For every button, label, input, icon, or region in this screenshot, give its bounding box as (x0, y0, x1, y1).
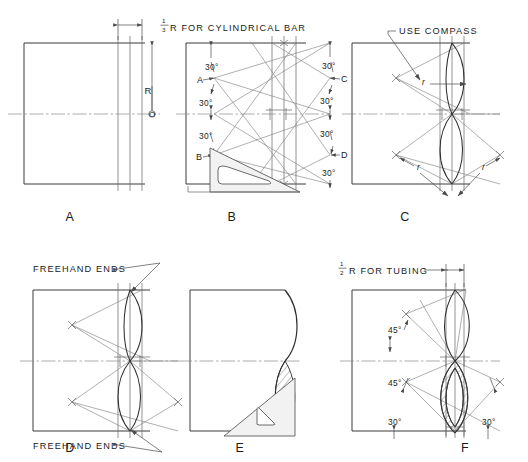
angle-label-b-left-2: 30° (199, 98, 213, 108)
panel-a: 1 3 R FOR CYLINDRICAL BAR R O A (8, 17, 306, 224)
radius-dimension-label: R (145, 85, 152, 96)
point-c-label: C (341, 74, 348, 84)
panel-f: 1 2 R FOR TUBING 45° 45° 30° 30° F (339, 260, 505, 455)
panel-letter-d: D (65, 441, 75, 455)
technical-drawing-canvas: 1 3 R FOR CYLINDRICAL BAR R O A (0, 0, 528, 462)
point-d-label: D (341, 150, 348, 160)
panel-b-angles-right: 30° C 30° 30° D 30° (320, 46, 348, 188)
angle-label-f-1: 45° (388, 325, 402, 335)
panel-b-angles-left: 30° A 30° 30° B (196, 46, 219, 162)
panel-e: E (178, 290, 300, 455)
angle-label-b-left-3: 30° (199, 131, 213, 141)
radius-label-c-1: r (422, 77, 426, 87)
drafting-triangle-e (224, 378, 295, 436)
freehand-ends-top-text: FREEHAND ENDS (33, 264, 126, 274)
angle-label-f-3: 30° (388, 417, 402, 427)
fraction-numerator-half: 1 (340, 260, 344, 267)
panel-letter-f: F (461, 441, 469, 455)
point-b-label: B (196, 152, 202, 162)
panel-c-radius-labels: r r r (400, 77, 500, 196)
angle-label-b-right-1: 30° (322, 61, 336, 71)
center-point-label: O (149, 110, 155, 119)
freehand-ends-bottom-text: FREEHAND ENDS (33, 441, 126, 451)
radius-label-c-2: r (417, 162, 421, 172)
angle-label-b-right-2: 30° (320, 96, 334, 106)
freehand-ends-note-top: FREEHAND ENDS (33, 263, 160, 292)
angle-label-f-4: 30° (482, 417, 496, 427)
half-r-note-text: R FOR TUBING (349, 266, 428, 276)
third-r-note-text: R FOR CYLINDRICAL BAR (170, 23, 306, 33)
panel-letter-b: B (228, 210, 237, 224)
panel-b: 30° A 30° 30° B 30° C 30° 30° D (176, 36, 348, 224)
drafting-triangle-b (188, 148, 300, 192)
fraction-denominator-half: 2 (340, 269, 344, 276)
point-a-label: A (197, 75, 203, 85)
panel-letter-c: C (400, 210, 410, 224)
angle-label-f-2: 45° (388, 378, 402, 388)
panel-letter-a: A (66, 210, 75, 224)
half-r-note: 1 2 R FOR TUBING (339, 260, 465, 287)
panel-letter-e: E (236, 441, 245, 455)
use-compass-text: USE COMPASS (399, 26, 478, 36)
fraction-denominator-third: 3 (162, 26, 166, 33)
panel-d: FREEHAND ENDS FREEHAND ENDS D (20, 263, 182, 455)
panel-c: USE COMPASS r r r C (342, 26, 504, 224)
angle-label-b-right-4: 30° (322, 168, 336, 178)
figure-sheet: 1 3 R FOR CYLINDRICAL BAR R O A (0, 0, 528, 462)
third-r-note: 1 3 R FOR CYLINDRICAL BAR (161, 17, 307, 33)
fraction-numerator-third: 1 (162, 17, 166, 24)
freehand-ends-note-bottom: FREEHAND ENDS (33, 430, 162, 452)
